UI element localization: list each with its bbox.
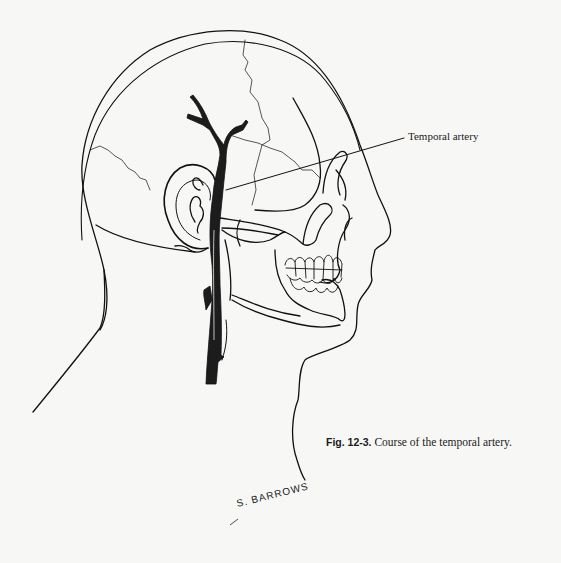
neck-back xyxy=(100,270,107,330)
signature-dash xyxy=(230,519,238,525)
maxilla xyxy=(320,205,349,283)
caption-text: Course of the temporal artery. xyxy=(372,436,512,448)
zygomatic-arch xyxy=(220,218,303,244)
occipital-line xyxy=(96,225,195,252)
mandible xyxy=(275,250,345,321)
temporal-artery-label: Temporal artery xyxy=(408,130,478,142)
head-illustration xyxy=(0,0,561,563)
lambdoid-suture xyxy=(90,146,150,190)
figure-number: Fig. 12-3. xyxy=(326,436,372,448)
teeth xyxy=(285,255,342,292)
neck-front xyxy=(222,320,227,360)
temporal-line xyxy=(255,98,320,211)
label-leader-line xyxy=(226,138,404,190)
squamous-suture xyxy=(230,135,320,178)
figure-caption: Fig. 12-3. Course of the temporal artery… xyxy=(326,436,512,448)
ear xyxy=(164,165,215,252)
